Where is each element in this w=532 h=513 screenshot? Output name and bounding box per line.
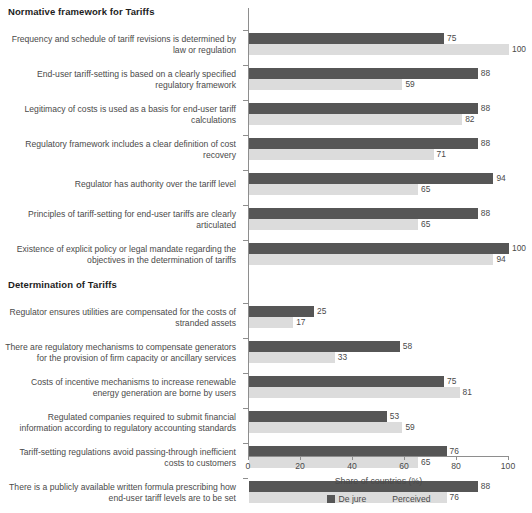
x-tick bbox=[352, 456, 353, 460]
bar-row-dejure: 75 bbox=[249, 33, 532, 44]
bar-value-label: 76 bbox=[447, 446, 459, 457]
legend-label-de-jure: De jure bbox=[339, 494, 367, 504]
x-tick bbox=[248, 456, 249, 460]
bar-value-label: 75 bbox=[444, 376, 456, 387]
category-label: There are regulatory mechanisms to compe… bbox=[4, 342, 242, 365]
bar-row-perceived: 82 bbox=[249, 114, 532, 125]
bar-value-label: 88 bbox=[478, 68, 490, 79]
bar-pair: 5359 bbox=[249, 411, 532, 433]
bar-perceived[interactable] bbox=[249, 219, 418, 230]
category-label: Regulator ensures utilities are compensa… bbox=[4, 307, 242, 330]
category-label: Regulatory framework includes a clear de… bbox=[4, 139, 242, 162]
legend-item-perceived: Perceived bbox=[380, 494, 430, 504]
section-header-label: Determination of Tariffs bbox=[8, 279, 117, 290]
y-axis-tick bbox=[243, 65, 248, 66]
bar-row-dejure: 58 bbox=[249, 341, 532, 352]
bar-group: Regulated companies required to submit f… bbox=[0, 406, 532, 441]
section-header: Determination of Tariffs bbox=[0, 273, 532, 301]
bar-value-label: 94 bbox=[493, 254, 505, 265]
bar-row-perceived: 65 bbox=[249, 184, 532, 195]
category-label: Regulated companies required to submit f… bbox=[4, 412, 242, 435]
y-axis-tick bbox=[243, 303, 248, 304]
bar-pair: 8859 bbox=[249, 68, 532, 90]
bar-dejure[interactable] bbox=[249, 173, 493, 184]
bar-dejure[interactable] bbox=[249, 243, 509, 254]
bar-row-dejure: 25 bbox=[249, 306, 532, 317]
bar-value-label: 65 bbox=[418, 219, 430, 230]
bar-group: Costs of incentive mechanisms to increas… bbox=[0, 371, 532, 406]
y-axis-tick bbox=[243, 30, 248, 31]
bar-value-label: 65 bbox=[418, 457, 430, 468]
y-axis-tick bbox=[243, 170, 248, 171]
bar-value-label: 82 bbox=[462, 114, 474, 125]
bar-perceived[interactable] bbox=[249, 422, 402, 433]
y-axis-tick bbox=[243, 408, 248, 409]
bar-group: Regulator has authority over the tariff … bbox=[0, 168, 532, 203]
bar-pair: 7665 bbox=[249, 446, 532, 468]
bar-perceived[interactable] bbox=[249, 184, 418, 195]
bar-pair: 75100 bbox=[249, 33, 532, 55]
bar-row-dejure: 94 bbox=[249, 173, 532, 184]
x-tick-label: 60 bbox=[399, 461, 409, 471]
bar-dejure[interactable] bbox=[249, 68, 478, 79]
bar-value-label: 94 bbox=[493, 173, 505, 184]
bar-perceived[interactable] bbox=[249, 457, 418, 468]
bar-group: Legitimacy of costs is used as a basis f… bbox=[0, 98, 532, 133]
category-label: Costs of incentive mechanisms to increas… bbox=[4, 377, 242, 400]
bar-perceived[interactable] bbox=[249, 352, 335, 363]
bar-perceived[interactable] bbox=[249, 79, 402, 90]
x-tick-label: 40 bbox=[347, 461, 357, 471]
bar-pair: 8865 bbox=[249, 208, 532, 230]
bar-value-label: 100 bbox=[509, 44, 526, 55]
x-tick bbox=[404, 456, 405, 460]
bar-dejure[interactable] bbox=[249, 33, 444, 44]
bar-dejure[interactable] bbox=[249, 103, 478, 114]
bar-pair: 5833 bbox=[249, 341, 532, 363]
bar-row-perceived: 94 bbox=[249, 254, 532, 265]
chart-rows: Normative framework for TariffsFrequency… bbox=[0, 0, 532, 511]
bar-dejure[interactable] bbox=[249, 208, 478, 219]
bar-value-label: 25 bbox=[314, 306, 326, 317]
bar-dejure[interactable] bbox=[249, 376, 444, 387]
bar-row-dejure: 88 bbox=[249, 103, 532, 114]
bar-value-label: 71 bbox=[434, 149, 446, 160]
x-tick-label: 0 bbox=[246, 461, 251, 471]
bar-perceived[interactable] bbox=[249, 44, 509, 55]
y-axis-tick bbox=[243, 338, 248, 339]
bar-row-dejure: 75 bbox=[249, 376, 532, 387]
bar-group: Principles of tariff-setting for end-use… bbox=[0, 203, 532, 238]
x-axis-title: Share of countries (%) bbox=[248, 476, 509, 486]
category-label: Tariff-setting regulations avoid passing… bbox=[4, 447, 242, 470]
x-tick-label: 100 bbox=[501, 461, 515, 471]
y-axis-tick bbox=[243, 240, 248, 241]
bar-value-label: 53 bbox=[387, 411, 399, 422]
bar-perceived[interactable] bbox=[249, 317, 293, 328]
x-tick bbox=[300, 456, 301, 460]
bar-dejure[interactable] bbox=[249, 138, 478, 149]
y-axis-tick bbox=[243, 373, 248, 374]
bar-row-dejure: 88 bbox=[249, 138, 532, 149]
bar-group: There are regulatory mechanisms to compe… bbox=[0, 336, 532, 371]
bar-value-label: 17 bbox=[293, 317, 305, 328]
bar-perceived[interactable] bbox=[249, 254, 493, 265]
bar-perceived[interactable] bbox=[249, 114, 462, 125]
bar-value-label: 88 bbox=[478, 208, 490, 219]
bar-row-dejure: 53 bbox=[249, 411, 532, 422]
x-axis-line bbox=[248, 456, 509, 457]
bar-value-label: 100 bbox=[509, 243, 526, 254]
bar-perceived[interactable] bbox=[249, 149, 434, 160]
bar-value-label: 75 bbox=[444, 33, 456, 44]
y-axis-tick bbox=[243, 443, 248, 444]
bar-dejure[interactable] bbox=[249, 341, 400, 352]
legend-swatch-perceived bbox=[380, 495, 388, 503]
category-label: Legitimacy of costs is used as a basis f… bbox=[4, 104, 242, 127]
bar-group: End-user tariff-setting is based on a cl… bbox=[0, 63, 532, 98]
category-label: There is a publicly available written fo… bbox=[4, 482, 242, 505]
bar-group: Existence of explicit policy or legal ma… bbox=[0, 238, 532, 273]
bar-row-perceived: 81 bbox=[249, 387, 532, 398]
bar-group: Regulator ensures utilities are compensa… bbox=[0, 301, 532, 336]
bar-row-perceived: 65 bbox=[249, 457, 532, 468]
bar-dejure[interactable] bbox=[249, 306, 314, 317]
bar-dejure[interactable] bbox=[249, 411, 387, 422]
bar-perceived[interactable] bbox=[249, 387, 460, 398]
